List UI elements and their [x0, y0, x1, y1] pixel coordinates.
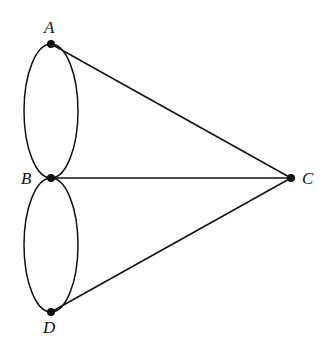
edge-A-C [51, 44, 291, 178]
vertex-C [287, 174, 295, 182]
label-A: A [43, 18, 55, 37]
edge-D-C [51, 178, 291, 312]
label-B: B [21, 169, 32, 188]
vertex-A [47, 40, 55, 48]
label-C: C [302, 169, 314, 188]
vertex-B [47, 174, 55, 182]
label-D: D [42, 318, 56, 337]
edge-B-D-loop [24, 178, 78, 312]
graph-diagram: A B C D [0, 0, 332, 358]
vertex-D [47, 308, 55, 316]
edge-A-B-loop [24, 44, 78, 178]
